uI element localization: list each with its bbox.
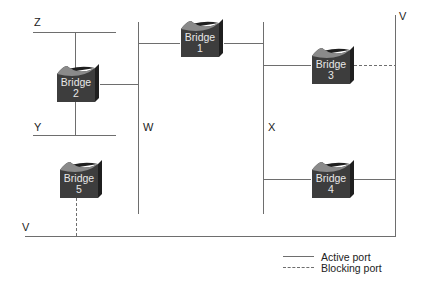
bridge-1: Bridge1 (179, 19, 225, 59)
bridge-5: Bridge5 (58, 160, 104, 200)
legend-blocking-label: Blocking port (321, 262, 382, 274)
bridge-3-label: Bridge3 (310, 59, 352, 81)
bridge-2-label: Bridge2 (55, 77, 97, 99)
bridge-3: Bridge3 (310, 46, 356, 86)
segment-y-label: Y (34, 122, 41, 133)
segment-w-label: W (143, 122, 153, 133)
blocking-line-swatch (283, 267, 314, 268)
bridge-4: Bridge4 (310, 160, 356, 200)
legend-blocking: Blocking port (283, 262, 382, 273)
bridge-2: Bridge2 (55, 64, 101, 104)
bridge-5-label: Bridge5 (58, 173, 100, 195)
legend-active: Active port (283, 251, 382, 262)
segment-v-right-label: V (399, 11, 406, 22)
segment-v-bottom-label: V (22, 222, 29, 233)
segment-z-label: Z (34, 17, 41, 28)
bridge-4-label: Bridge4 (310, 173, 352, 195)
segment-x-label: X (268, 122, 275, 133)
active-line-swatch (283, 256, 314, 257)
bridge-1-label: Bridge1 (179, 32, 221, 54)
legend: Active port Blocking port (283, 251, 382, 273)
